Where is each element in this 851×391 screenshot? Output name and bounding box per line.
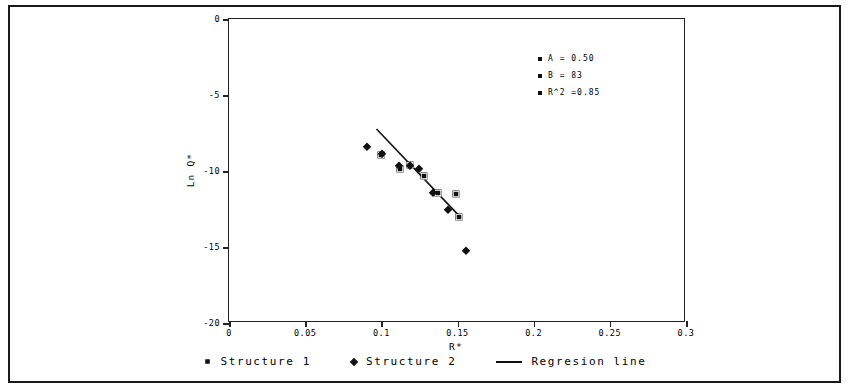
square-marker-icon <box>537 90 543 96</box>
x-tick <box>305 321 307 327</box>
annotation-text: B = 83 <box>548 67 583 84</box>
data-point-square <box>420 172 427 179</box>
x-tick-label: 0.25 <box>599 328 621 338</box>
x-tick <box>229 321 231 327</box>
x-tick-label: 0.05 <box>294 328 316 338</box>
x-tick <box>534 321 536 327</box>
stats-annotation: A = 0.50B = 83R^2 =0.85 <box>537 50 600 101</box>
data-point-square <box>452 190 459 197</box>
annotation-row: R^2 =0.85 <box>537 84 600 101</box>
x-tick <box>381 321 383 327</box>
line-marker-icon <box>496 361 522 363</box>
legend-item-structure-2: Structure 2 <box>351 355 456 368</box>
chart-legend: Structure 1Structure 2Regresion line <box>0 355 851 368</box>
legend-item-label: Structure 1 <box>220 355 310 368</box>
y-tick-label: -15 <box>203 242 220 252</box>
x-axis-label: R* <box>449 341 463 352</box>
y-tick-label: -5 <box>209 90 220 100</box>
square-marker-icon <box>204 358 211 365</box>
legend-item-regresion-line: Regresion line <box>496 355 646 368</box>
annotation-row: B = 83 <box>537 67 600 84</box>
y-tick-label: 0 <box>214 14 220 24</box>
chart-canvas: Ln Q* R* 0-5-10-15-20 00.050.10.150.20.2… <box>0 0 851 391</box>
x-tick-label: 0.3 <box>678 328 695 338</box>
legend-item-structure-1: Structure 1 <box>204 355 310 368</box>
legend-item-label: Regresion line <box>531 355 646 368</box>
x-tick-label: 0 <box>226 328 232 338</box>
square-marker-icon <box>537 56 543 62</box>
plot-area: 0-5-10-15-20 00.050.10.150.20.250.3 <box>228 18 685 322</box>
x-tick-label: 0.1 <box>373 328 390 338</box>
y-tick-label: -10 <box>203 166 220 176</box>
annotation-text: R^2 =0.85 <box>548 84 600 101</box>
y-axis-label: Ln Q* <box>185 153 196 188</box>
x-tick <box>458 321 460 327</box>
annotation-row: A = 0.50 <box>537 50 600 67</box>
legend-item-label: Structure 2 <box>366 355 456 368</box>
data-point-square <box>456 213 463 220</box>
x-tick-label: 0.15 <box>446 328 468 338</box>
annotation-text: A = 0.50 <box>548 50 595 67</box>
x-tick <box>610 321 612 327</box>
regression-line <box>228 18 685 322</box>
x-tick <box>686 321 688 327</box>
x-tick-label: 0.2 <box>525 328 542 338</box>
diamond-marker-icon <box>350 357 358 365</box>
square-marker-icon <box>537 73 543 79</box>
y-tick-label: -20 <box>203 318 220 328</box>
